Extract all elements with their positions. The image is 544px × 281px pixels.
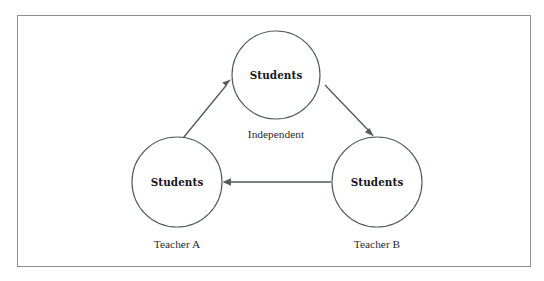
diagram-root: Students Students Students Independent T… xyxy=(0,0,544,281)
node-caption-teacher-a: Teacher A xyxy=(154,238,200,250)
node-caption-teacher-b: Teacher B xyxy=(354,238,400,250)
node-caption-independent: Independent xyxy=(248,128,304,140)
node-label-left: Students xyxy=(151,176,204,188)
node-label-top: Students xyxy=(250,69,303,81)
node-label-right: Students xyxy=(351,176,404,188)
figure-frame xyxy=(17,15,531,267)
